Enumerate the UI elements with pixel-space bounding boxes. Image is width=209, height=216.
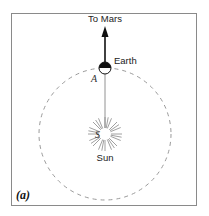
to-mars-label: To Mars [88,13,122,24]
earth-icon [99,62,111,74]
figure-frame [12,14,197,206]
point-a-label: A [90,73,98,84]
orbit-diagram: To Mars Earth A S Sun (a) [0,0,209,216]
earth-label: Earth [114,55,137,66]
point-s-label: S [95,129,100,140]
panel-label: (a) [16,188,30,202]
sun-label: Sun [97,152,114,163]
